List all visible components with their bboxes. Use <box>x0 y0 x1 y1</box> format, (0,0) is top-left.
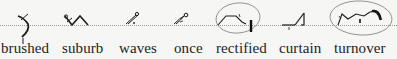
word-once: once <box>174 40 203 57</box>
word-turnover: turnover <box>334 40 386 57</box>
word-waves: waves <box>119 40 157 57</box>
outline-brushed <box>8 0 58 40</box>
outline-waves <box>122 0 152 40</box>
outline-curtain <box>280 0 320 40</box>
outline-suburb <box>60 0 100 40</box>
word-rectified: rectified <box>216 40 267 57</box>
shorthand-chart: brushed suburb waves once <box>0 0 397 59</box>
annotation-circle-turnover <box>329 0 393 37</box>
outline-turnover <box>326 0 396 40</box>
word-suburb: suburb <box>62 40 103 57</box>
word-brushed: brushed <box>1 40 49 57</box>
outline-rectified <box>212 0 268 40</box>
word-curtain: curtain <box>279 40 321 57</box>
outline-once <box>170 0 200 40</box>
